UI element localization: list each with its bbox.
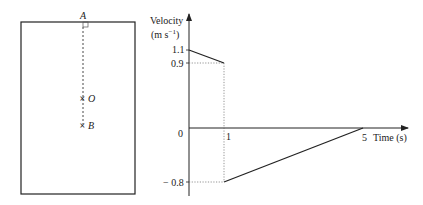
x-label-5: 5 [362, 132, 367, 143]
label-A: A [79, 10, 87, 21]
label-O: O [88, 93, 95, 104]
y-label-0: 0 [178, 128, 183, 139]
cross-O-icon: × [80, 93, 86, 104]
x-axis-title: Time (s) [373, 132, 407, 144]
segment-rebound [224, 128, 363, 182]
rectangle-diagram: A × O × B [21, 10, 135, 194]
cross-B-icon: × [80, 120, 86, 131]
velocity-time-graph: Velocity (m s−1) 1.1 0.9 0 − 0.8 1 5 Tim… [150, 14, 408, 196]
segment-decel [189, 50, 224, 63]
y-label-neg-0.8: − 0.8 [163, 177, 184, 188]
x-label-1: 1 [226, 131, 231, 142]
y-label-1.1: 1.1 [172, 44, 185, 55]
right-angle-marker [83, 22, 88, 27]
figure: A × O × B Velocity (m s−1) 1.1 0.9 0 − 0… [0, 0, 423, 205]
y-axis-units: (m s−1) [151, 28, 179, 41]
y-axis-title: Velocity [150, 15, 183, 26]
label-B: B [88, 120, 94, 131]
rectangle-frame [21, 22, 135, 194]
y-label-0.9: 0.9 [171, 58, 184, 69]
